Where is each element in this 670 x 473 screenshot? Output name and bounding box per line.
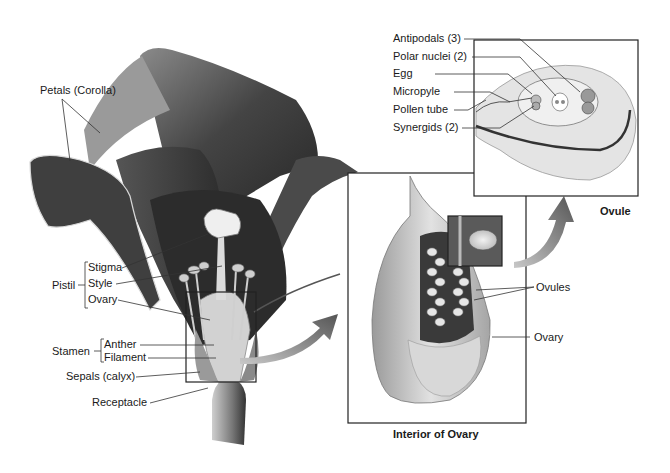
label-ovary-detail: Ovary: [534, 331, 563, 344]
caption-ovule: Ovule: [600, 205, 631, 217]
label-pistil: Pistil: [52, 279, 75, 292]
label-stigma: Stigma: [88, 261, 122, 274]
label-polar-nuclei: Polar nuclei (2): [393, 50, 467, 63]
label-pollen-tube: Pollen tube: [393, 103, 448, 116]
label-antipodals: Antipodals (3): [393, 32, 461, 45]
caption-interior-of-ovary: Interior of Ovary: [393, 428, 479, 440]
label-petals: Petals (Corolla): [40, 84, 116, 97]
label-egg: Egg: [393, 67, 413, 80]
label-synergids: Synergids (2): [393, 121, 458, 134]
label-ovules: Ovules: [536, 281, 570, 294]
label-sepals: Sepals (calyx): [66, 370, 135, 383]
label-filament: Filament: [104, 351, 146, 364]
label-stamen: Stamen: [52, 345, 90, 358]
label-ovary: Ovary: [88, 293, 117, 306]
label-receptacle: Receptacle: [92, 396, 147, 409]
label-anther: Anther: [104, 338, 136, 351]
ovule-panel: [474, 40, 638, 196]
label-micropyle: Micropyle: [393, 85, 440, 98]
ovary-panel: [348, 173, 526, 423]
flower-drawing: [30, 48, 358, 445]
label-style: Style: [88, 277, 112, 290]
